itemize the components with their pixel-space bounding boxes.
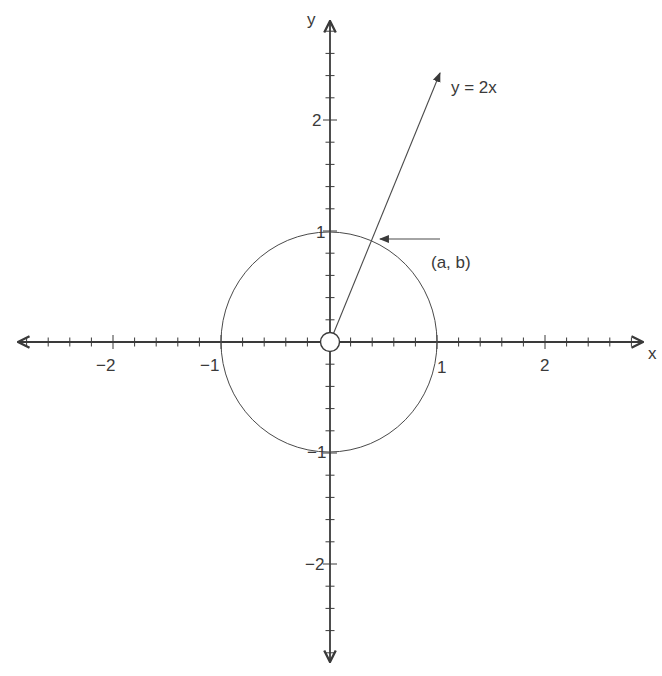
y-tick-label-1: 1 [316,223,325,242]
line-y-equals-2x [330,73,440,342]
y-tick-label-neg1: −1 [307,443,326,462]
x-axis-label: x [648,344,657,363]
y-tick-label-2: 2 [312,111,321,130]
x-tick-label-neg2: −2 [96,356,115,375]
unit-circle-diagram: y x y = 2x (a, b) −2 −1 1 2 2 1 −1 −2 [0,0,662,676]
line-equation-label: y = 2x [451,78,497,97]
y-axis-label: y [307,10,316,29]
x-tick-label-neg1: −1 [200,356,219,375]
x-tick-label-1: 1 [437,358,446,377]
x-tick-label-2: 2 [540,356,549,375]
y-tick-label-neg2: −2 [305,555,324,574]
point-label: (a, b) [431,253,471,272]
origin-open-point [321,333,340,352]
